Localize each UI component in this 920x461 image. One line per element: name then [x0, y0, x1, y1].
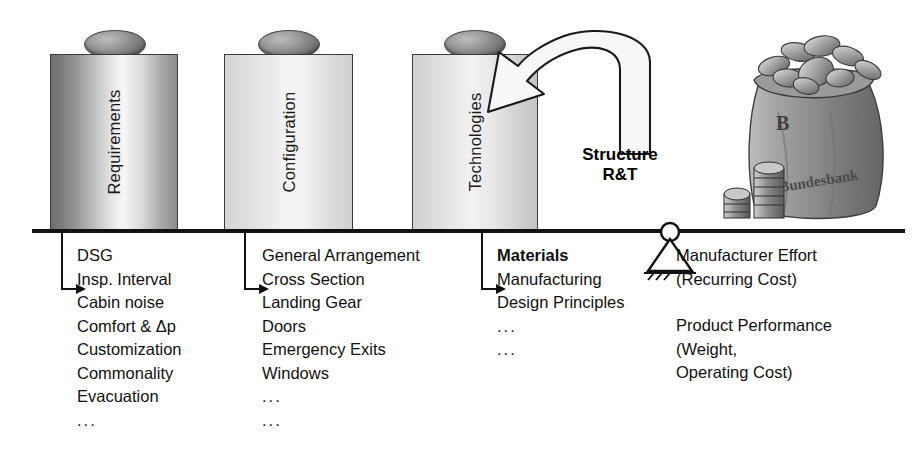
output-line: (Weight, — [676, 338, 911, 362]
structure-rt-label: Structure R&T — [556, 145, 684, 185]
list-item: ... — [262, 385, 477, 409]
list-outputs: Manufacturer Effort(Recurring Cost)Produ… — [676, 244, 911, 385]
list-technologies: MaterialsManufacturingDesign Principles.… — [497, 244, 662, 362]
curved-feedback-arrow — [480, 26, 670, 161]
pillar-label-requirements: Requirements — [105, 89, 124, 194]
list-requirements: DSGInsp. IntervalCabin noiseComfort & Δp… — [77, 244, 242, 432]
output-line: Manufacturer Effort — [676, 244, 911, 268]
diagram-canvas: Requirements Configuration Technologies — [0, 0, 920, 461]
pillar-configuration: Configuration — [224, 54, 353, 230]
output-line: Operating Cost) — [676, 361, 911, 385]
list-item: Cabin noise — [77, 291, 242, 315]
list-item: General Arrangement — [262, 244, 477, 268]
list-item: Customization — [77, 338, 242, 362]
pillar-label-configuration: Configuration — [279, 92, 298, 193]
output-line: (Recurring Cost) — [676, 268, 911, 292]
list-item: ... — [497, 338, 662, 362]
list-item: Cross Section — [262, 268, 477, 292]
list-item: ... — [262, 409, 477, 433]
list-item: DSG — [77, 244, 242, 268]
money-bag-initial: B — [776, 112, 789, 134]
list-item: Emergency Exits — [262, 338, 477, 362]
list-item: Design Principles — [497, 291, 662, 315]
structure-rt-line2: R&T — [556, 165, 684, 185]
list-item: Evacuation — [77, 385, 242, 409]
spacer — [676, 291, 911, 314]
list-item: ... — [497, 315, 662, 339]
list-item: ... — [77, 409, 242, 433]
list-item: Landing Gear — [262, 291, 477, 315]
list-item: Windows — [262, 362, 477, 386]
structure-rt-line1: Structure — [556, 145, 684, 165]
pillar-requirements: Requirements — [50, 54, 178, 230]
output-line: Product Performance — [676, 314, 911, 338]
list-item: Insp. Interval — [77, 268, 242, 292]
balance-beam — [32, 229, 905, 233]
list-item: Comfort & Δp — [77, 315, 242, 339]
list-item: Doors — [262, 315, 477, 339]
money-bag-icon: B Bundesbank — [718, 8, 910, 233]
list-item: Manufacturing — [497, 268, 662, 292]
list-item: Commonality — [77, 362, 242, 386]
list-configuration: General ArrangementCross SectionLanding … — [262, 244, 477, 432]
list-item: Materials — [497, 244, 662, 268]
